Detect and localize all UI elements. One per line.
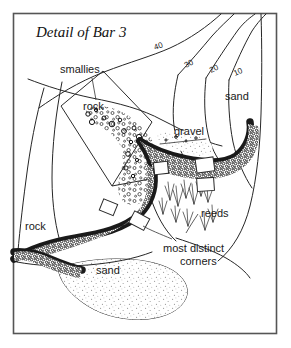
- label-most-distinct-corners-line1: most distinct: [163, 242, 224, 254]
- corner-marker-upper-right: [195, 157, 215, 173]
- label-reeds: reeds: [201, 207, 229, 219]
- label-most-distinct-corners-line2: corners: [180, 255, 217, 267]
- label-rock-lower: rock: [25, 220, 46, 232]
- label-gravel: gravel: [174, 125, 204, 137]
- corner-marker-gravel: [153, 161, 168, 174]
- label-sand-upper: sand: [225, 90, 249, 102]
- corner-marker-right: [197, 177, 215, 191]
- figure-title: Detail of Bar 3: [35, 24, 126, 40]
- map-canvas: Detail of Bar 3 smallies 40 30 20 10 san…: [0, 0, 291, 348]
- detail-of-bar-3-figure: Detail of Bar 3 smallies 40 30 20 10 san…: [0, 0, 291, 348]
- label-rock-upper: rock: [83, 100, 104, 112]
- label-sand-lower: sand: [96, 264, 120, 276]
- label-smallies: smallies: [60, 63, 100, 75]
